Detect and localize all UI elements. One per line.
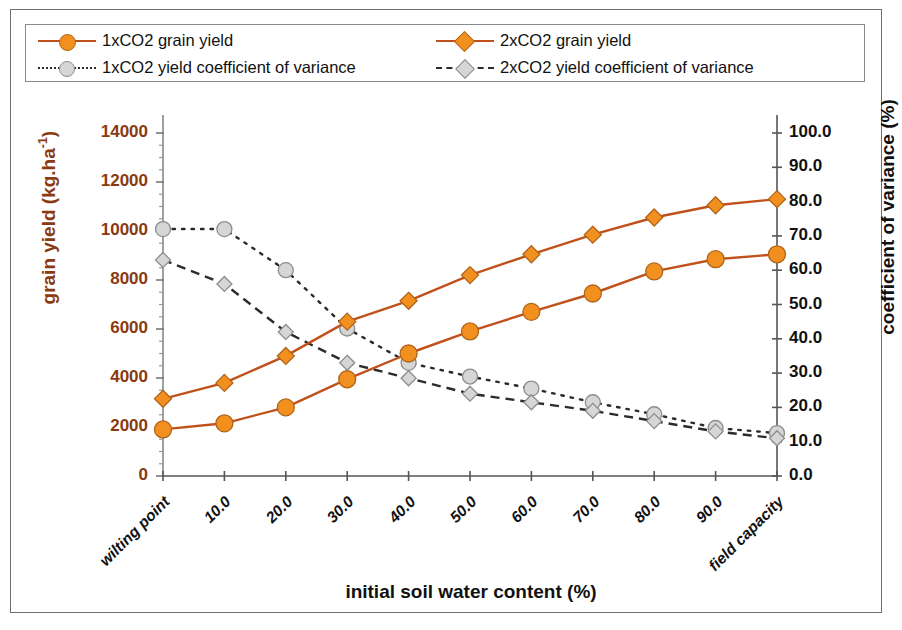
y-axis-right-tick-label: 40.0 — [789, 328, 859, 348]
legend-label-0: 1xCO2 grain yield — [98, 31, 233, 50]
y-axis-right-tick-label: 100.0 — [789, 122, 859, 142]
y-axis-left-tick-label: 10000 — [78, 220, 148, 240]
y-axis-left-tick-label: 4000 — [78, 367, 148, 387]
y-axis-right-tick-label: 20.0 — [789, 396, 859, 416]
legend-item-2[interactable]: 1xCO2 yield coefficient of variance — [36, 54, 356, 81]
y-axis-left-tick-label: 14000 — [78, 122, 148, 142]
legend-symbol-circle-orange-icon — [36, 30, 98, 52]
y-axis-right-tick-label: 70.0 — [789, 225, 859, 245]
legend-row-yield: 1xCO2 grain yield 2xCO2 grain yield — [26, 27, 864, 54]
legend-label-3: 2xCO2 yield coefficient of variance — [496, 58, 754, 77]
y-axis-left-tick-label: 0 — [78, 465, 148, 485]
y-axis-right-tick-label: 50.0 — [789, 294, 859, 314]
y-axis-left-tick-label: 2000 — [78, 416, 148, 436]
y-axis-right-tick-label: 30.0 — [789, 362, 859, 382]
legend-item-1[interactable]: 2xCO2 grain yield — [434, 27, 631, 54]
legend-symbol-diamond-grey-icon — [434, 57, 496, 79]
chart-legend: 1xCO2 grain yield 2xCO2 grain yield 1xCO… — [25, 24, 865, 82]
y-axis-left-title: grain yield (kg.ha-1) — [36, 53, 59, 383]
legend-label-1: 2xCO2 grain yield — [496, 31, 631, 50]
y-axis-right-tick-label: 0.0 — [789, 465, 859, 485]
y-axis-right-tick-label: 90.0 — [789, 156, 859, 176]
legend-label-2: 1xCO2 yield coefficient of variance — [98, 58, 356, 77]
y-axis-left-tick-label: 6000 — [78, 318, 148, 338]
y-axis-left-tick-label: 12000 — [78, 171, 148, 191]
y-axis-left-tick-label: 8000 — [78, 269, 148, 289]
y-axis-right-tick-label: 80.0 — [789, 191, 859, 211]
legend-item-3[interactable]: 2xCO2 yield coefficient of variance — [434, 54, 754, 81]
y-axis-right-title: coefficient of variance (%) — [877, 52, 899, 382]
chart-frame: 1xCO2 grain yield 2xCO2 grain yield 1xCO… — [10, 9, 882, 613]
legend-symbol-diamond-orange-icon — [434, 30, 496, 52]
y-axis-right-tick-label: 60.0 — [789, 259, 859, 279]
legend-item-0[interactable]: 1xCO2 grain yield — [36, 27, 233, 54]
y-axis-right-tick-label: 10.0 — [789, 431, 859, 451]
legend-row-cv: 1xCO2 yield coefficient of variance 2xCO… — [26, 54, 864, 81]
